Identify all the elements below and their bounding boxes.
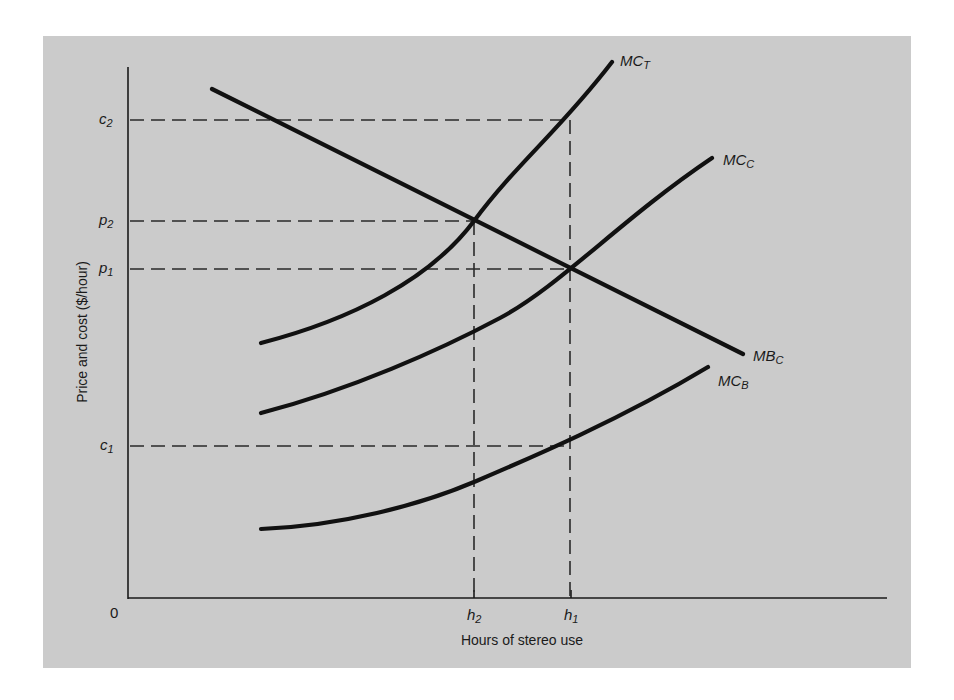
y-axis-title: Price and cost ($/hour) xyxy=(74,261,90,403)
y-label-p2: p2 xyxy=(99,212,113,230)
axes xyxy=(128,67,887,599)
x-label-h1: h1 xyxy=(564,607,578,625)
curve-mb-c xyxy=(212,89,743,354)
label-mc-b: MCB xyxy=(718,373,749,391)
curves xyxy=(212,62,743,529)
y-label-c1: c1 xyxy=(100,437,114,455)
origin-label: 0 xyxy=(110,604,118,621)
curve-mc-c xyxy=(261,158,712,413)
diagram-canvas xyxy=(0,0,954,700)
x-axis-title: Hours of stereo use xyxy=(461,632,583,648)
label-mc-t: MCT xyxy=(620,53,650,71)
label-mb-c: MBC xyxy=(753,348,783,366)
y-label-c2: c2 xyxy=(99,111,113,129)
label-mc-c: MCC xyxy=(723,152,754,170)
guide-lines xyxy=(130,120,570,597)
y-label-p1: p1 xyxy=(99,260,113,278)
x-label-h2: h2 xyxy=(467,607,481,625)
